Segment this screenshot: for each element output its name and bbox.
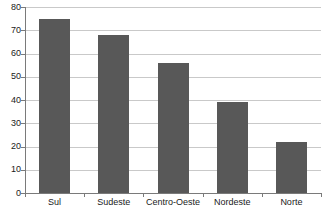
x-axis-category-label: Sul bbox=[25, 197, 84, 208]
y-axis-tick-label: 40 bbox=[2, 96, 21, 105]
y-axis-tick-label: 80 bbox=[2, 3, 21, 12]
y-axis-tick-label: 70 bbox=[2, 26, 21, 35]
bar bbox=[276, 142, 307, 193]
x-axis-category-label: Norte bbox=[262, 197, 321, 208]
bar bbox=[217, 102, 248, 193]
x-axis-category-label: Centro-Oeste bbox=[143, 197, 202, 208]
y-axis-tick-label: 20 bbox=[2, 142, 21, 151]
y-axis-tick-label: 50 bbox=[2, 72, 21, 81]
y-axis-tick-label: 30 bbox=[2, 119, 21, 128]
x-axis-line bbox=[25, 193, 321, 194]
x-axis-tick-labels: SulSudesteCentro-OesteNordesteNorte bbox=[25, 197, 321, 217]
bar bbox=[158, 63, 189, 193]
x-axis-category-label: Nordeste bbox=[203, 197, 262, 208]
bars-group bbox=[25, 7, 321, 193]
x-axis-tick bbox=[321, 193, 322, 197]
bar bbox=[39, 19, 70, 193]
y-axis-tick-label: 0 bbox=[2, 189, 21, 198]
x-axis-category-label: Sudeste bbox=[84, 197, 143, 208]
y-axis-tick-label: 10 bbox=[2, 165, 21, 174]
y-axis-tick-labels: 01020304050607080 bbox=[0, 0, 21, 224]
bar bbox=[98, 35, 129, 193]
y-axis-tick-label: 60 bbox=[2, 49, 21, 58]
bar-chart: 01020304050607080 SulSudesteCentro-Oeste… bbox=[0, 0, 323, 224]
